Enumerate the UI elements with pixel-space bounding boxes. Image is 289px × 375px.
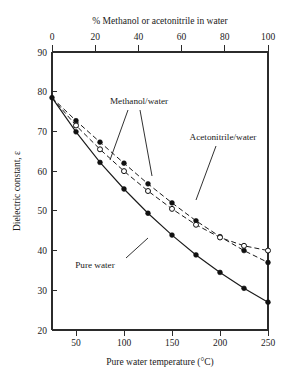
y-ticklabel-60: 60 [38, 167, 48, 177]
y-ticklabel-90: 90 [38, 48, 48, 58]
methanol-leader-b [140, 110, 152, 176]
data-point [74, 123, 79, 128]
x-axis-ticks [76, 330, 268, 336]
data-point [218, 235, 223, 240]
data-point [146, 181, 151, 186]
top-ticklabel-80: 80 [220, 32, 230, 42]
methanol-leader-a [110, 110, 128, 160]
data-point [98, 147, 103, 152]
data-point [218, 270, 223, 275]
data-point [74, 118, 79, 123]
data-point [170, 201, 175, 206]
data-point [146, 189, 151, 194]
plot-frame [52, 52, 268, 330]
y-ticklabel-40: 40 [38, 246, 48, 256]
x-ticklabel-200: 200 [213, 338, 228, 348]
top-ticklabel-40: 40 [134, 32, 144, 42]
top-axis-ticks [52, 45, 268, 52]
x-ticklabel-150: 150 [165, 338, 180, 348]
data-point [122, 169, 127, 174]
data-point [242, 286, 247, 291]
data-point [242, 243, 247, 248]
top-ticklabel-0: 0 [50, 32, 55, 42]
data-point [194, 253, 199, 258]
series-line [52, 98, 268, 263]
data-point [122, 187, 127, 192]
top-ticklabel-20: 20 [90, 32, 100, 42]
data-point [170, 206, 175, 211]
x-ticklabel-50: 50 [71, 338, 81, 348]
methanol-water-label: Methanol/water [110, 96, 168, 106]
data-point [74, 129, 79, 134]
dielectric-constant-chart: 0 20 40 60 80 100 % Methanol or acetonit… [0, 0, 289, 375]
data-point [98, 140, 103, 145]
data-point [146, 211, 151, 216]
y-axis-title: Dielectric constant, ε [12, 151, 22, 231]
y-axis-ticks [52, 52, 57, 330]
acetonitrile-leader [196, 146, 216, 200]
data-point [266, 248, 271, 253]
y-ticklabel-70: 70 [38, 127, 48, 137]
chart-figure: 0 20 40 60 80 100 % Methanol or acetonit… [0, 0, 289, 375]
top-axis-tick-labels: 0 20 40 60 80 100 [50, 32, 276, 42]
pure-water-label: Pure water [75, 260, 115, 270]
y-ticklabel-20: 20 [38, 326, 48, 336]
y-ticklabel-50: 50 [38, 206, 48, 216]
x-ticklabel-100: 100 [117, 338, 132, 348]
top-ticklabel-100: 100 [261, 32, 276, 42]
data-point [266, 260, 271, 265]
y-ticklabel-80: 80 [38, 87, 48, 97]
acetonitrile-water-label: Acetonitrile/water [190, 132, 257, 142]
x-axis-title: Pure water temperature (°C) [106, 357, 213, 368]
series-methanol-water [52, 98, 270, 265]
pure-water-leader [126, 238, 148, 258]
data-point [194, 222, 199, 227]
series-acetonitrile-water [52, 98, 271, 253]
data-point [98, 160, 103, 165]
data-point [122, 161, 127, 166]
data-series-layer [50, 95, 271, 304]
top-ticklabel-60: 60 [177, 32, 187, 42]
data-point [266, 300, 271, 305]
data-point [242, 248, 247, 253]
series-line [52, 98, 268, 251]
y-ticklabel-30: 30 [38, 286, 48, 296]
x-axis-tick-labels: 50 100 150 200 250 [71, 338, 275, 348]
top-axis-title: % Methanol or acetonitrile in water [92, 16, 228, 26]
x-ticklabel-250: 250 [261, 338, 276, 348]
data-point [170, 233, 175, 238]
y-axis-tick-labels: 90 80 70 60 50 40 30 20 [38, 48, 48, 336]
